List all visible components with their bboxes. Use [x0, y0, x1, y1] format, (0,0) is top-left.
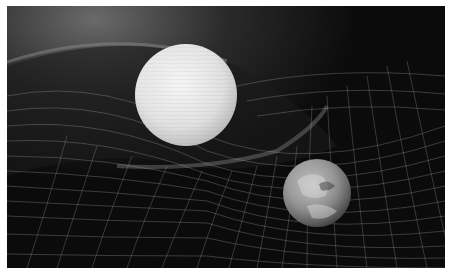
spacetime-grid-graphic: [7, 6, 445, 268]
spacetime-illustration: [7, 6, 445, 268]
small-planet: [283, 159, 351, 227]
large-planet: [135, 44, 237, 146]
